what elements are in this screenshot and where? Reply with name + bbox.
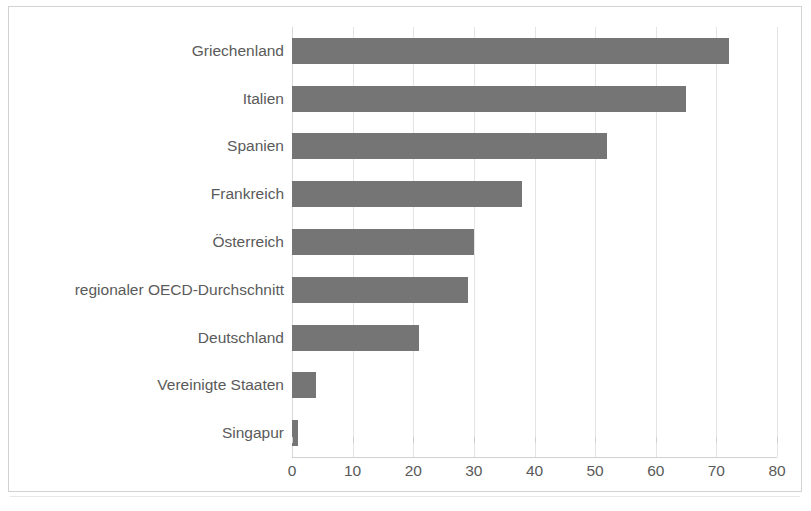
bar — [292, 325, 419, 351]
x-tick-label: 60 — [636, 461, 676, 481]
bar — [292, 38, 729, 64]
bar-row — [292, 170, 777, 218]
bar-row — [292, 409, 777, 457]
category-label: Singapur — [222, 424, 284, 442]
x-tick-label: 0 — [272, 461, 312, 481]
bar — [292, 372, 316, 398]
bar — [292, 181, 522, 207]
x-tick-mark-30 — [474, 437, 475, 443]
x-tick-label: 70 — [696, 461, 736, 481]
bar-row — [292, 27, 777, 75]
chart-figure: GriechenlandItalienSpanienFrankreichÖste… — [8, 6, 802, 492]
bar-row — [292, 123, 777, 171]
category-label: Deutschland — [198, 329, 284, 347]
category-label: Spanien — [227, 137, 284, 155]
x-tick-label: 50 — [575, 461, 615, 481]
gridline-80 — [777, 27, 778, 457]
category-label: Österreich — [213, 233, 285, 251]
bar-series — [292, 27, 777, 457]
bar-row — [292, 218, 777, 266]
category-label: Vereinigte Staaten — [157, 376, 284, 394]
x-tick-mark-10 — [353, 437, 354, 443]
bar-row — [292, 314, 777, 362]
category-label: Italien — [243, 90, 284, 108]
x-tick-label: 10 — [333, 461, 373, 481]
bar — [292, 86, 686, 112]
category-axis-labels: GriechenlandItalienSpanienFrankreichÖste… — [9, 27, 292, 457]
x-tick-label: 20 — [393, 461, 433, 481]
x-tick-label: 40 — [515, 461, 555, 481]
category-label: regionaler OECD-Durchschnitt — [75, 281, 284, 299]
bar-row — [292, 75, 777, 123]
page-edge-divider — [10, 496, 800, 497]
x-tick-mark-60 — [656, 437, 657, 443]
bar — [292, 133, 607, 159]
x-tick-mark-70 — [716, 437, 717, 443]
category-label: Frankreich — [211, 185, 284, 203]
x-tick-label: 30 — [454, 461, 494, 481]
category-label: Griechenland — [192, 42, 284, 60]
x-axis-line — [292, 457, 777, 458]
x-tick-mark-20 — [413, 437, 414, 443]
bar — [292, 229, 474, 255]
x-tick-label: 80 — [757, 461, 797, 481]
x-tick-mark-0 — [292, 437, 293, 443]
x-tick-mark-40 — [535, 437, 536, 443]
bar-row — [292, 266, 777, 314]
plot-area — [292, 27, 777, 457]
x-tick-mark-80 — [777, 437, 778, 443]
bar — [292, 277, 468, 303]
bar-row — [292, 361, 777, 409]
x-tick-mark-50 — [595, 437, 596, 443]
